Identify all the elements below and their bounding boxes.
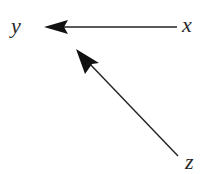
edge-line-z-y: [88, 62, 178, 156]
edge-x-to-y: [44, 20, 177, 34]
node-label-z: z: [185, 151, 194, 173]
edge-z-to-y: [76, 49, 178, 156]
node-label-x: x: [182, 14, 192, 36]
node-label-y: y: [11, 15, 21, 37]
